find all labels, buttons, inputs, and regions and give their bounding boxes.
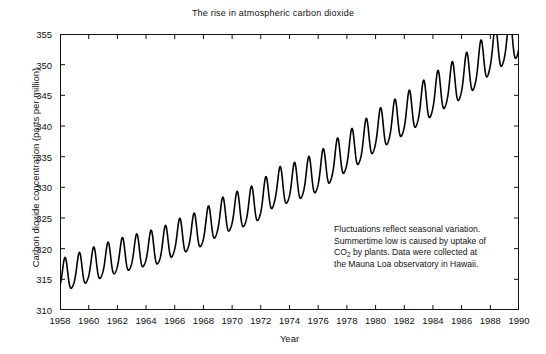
x-axis-label: Year [60,333,519,344]
y-tick-label: 355 [6,29,52,40]
y-tick-label: 335 [6,151,52,162]
annotation-co2-text: CO [334,247,347,257]
chart-figure: The rise in atmospheric carbon dioxide C… [0,0,546,354]
annotation-line-4: the Mauna Loa observatory in Hawaii. [334,259,506,271]
chart-annotation: Fluctuations reflect seasonal variation.… [334,224,506,270]
annotation-line-3-rest: by plants. Data were collected at [351,247,478,257]
annotation-co2-subscript: 2 [347,251,351,258]
annotation-line-2: Summertime low is caused by uptake of [334,236,506,248]
y-tick-label: 330 [6,182,52,193]
annotation-line-1: Fluctuations reflect seasonal variation. [334,224,506,236]
y-tick-label: 340 [6,121,52,132]
y-tick-label: 320 [6,243,52,254]
x-tick-label: 1990 [497,315,541,326]
y-tick-label: 345 [6,90,52,101]
y-tick-label: 325 [6,213,52,224]
y-tick-label: 350 [6,59,52,70]
y-tick-label: 315 [6,274,52,285]
y-tick-label: 310 [6,305,52,316]
annotation-line-3: CO2 by plants. Data were collected at [334,247,506,259]
chart-title: The rise in atmospheric carbon dioxide [0,8,546,18]
y-axis-label: Carbon dioxide concentration (parts per … [30,30,41,306]
